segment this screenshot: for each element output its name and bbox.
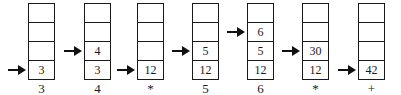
stack-cell: 6 [248,23,273,42]
stack-cell [359,42,384,61]
stack-column: 6 5 12 [247,3,274,80]
stack-cell: 12 [193,61,218,79]
stack-cell [303,4,328,23]
stack-top-arrow [7,65,26,75]
stack-cell: 5 [248,42,273,61]
stack-cell [29,4,54,23]
stack-top-arrow [281,46,300,56]
step-token-label: + [358,82,385,95]
stack-top-arrow [63,46,82,56]
stack-cell [248,4,273,23]
stack-state-4: 5 12 5 [192,3,219,80]
stack-column: 30 12 [302,3,329,80]
stack-cell: 5 [193,42,218,61]
stack-state-3: 12 * [137,3,164,80]
stack-cell: 12 [303,61,328,79]
stack-state-7: 42 + [358,3,385,80]
stack-column: 4 3 [84,3,111,80]
stack-cell [193,4,218,23]
stack-cell [85,23,110,42]
arrow-head-icon [74,46,82,56]
stack-cell: 30 [303,42,328,61]
step-token-label: 6 [247,82,274,95]
stack-top-arrow [116,65,135,75]
stack-cell: 42 [359,61,384,79]
stack-state-5: 6 5 12 6 [247,3,274,80]
arrow-head-icon [182,46,190,56]
stack-cell: 3 [85,61,110,79]
arrow-head-icon [127,65,135,75]
stack-cell [359,23,384,42]
arrow-head-icon [237,27,245,37]
stack-top-arrow [171,46,190,56]
arrow-head-icon [292,46,300,56]
stack-state-2: 4 3 4 [84,3,111,80]
stack-cell: 3 [29,61,54,79]
stack-evaluation-diagram: 3 3 4 3 4 12 * [0,0,401,95]
stack-cell [193,23,218,42]
stack-column: 42 [358,3,385,80]
step-token-label: * [137,82,164,95]
stack-cell [138,4,163,23]
stack-cell: 4 [85,42,110,61]
step-token-label: 4 [84,82,111,95]
stack-column: 5 12 [192,3,219,80]
step-token-label: 3 [28,82,55,95]
stack-cell: 12 [248,61,273,79]
step-token-label: 5 [192,82,219,95]
stack-column: 3 [28,3,55,80]
stack-cell [303,23,328,42]
stack-cell [29,23,54,42]
stack-cell [138,23,163,42]
stack-state-1: 3 3 [28,3,55,80]
stack-top-arrow [226,27,245,37]
step-token-label: * [302,82,329,95]
stack-cell [85,4,110,23]
stack-column: 12 [137,3,164,80]
stack-top-arrow [337,65,356,75]
arrow-head-icon [348,65,356,75]
stack-cell [29,42,54,61]
stack-cell: 12 [138,61,163,79]
stack-cell [359,4,384,23]
stack-state-6: 30 12 * [302,3,329,80]
arrow-head-icon [18,65,26,75]
stack-cell [138,42,163,61]
